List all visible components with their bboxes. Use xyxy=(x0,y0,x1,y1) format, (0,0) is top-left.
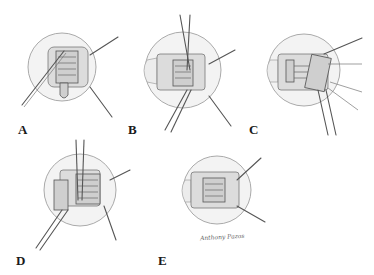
panel-e-illustration xyxy=(175,150,275,235)
panel-label-a: A xyxy=(18,122,27,138)
panel-b-illustration xyxy=(135,10,245,130)
panel-label-d: D xyxy=(16,253,25,269)
panel-a xyxy=(20,25,120,125)
panel-label-c: C xyxy=(249,122,258,138)
panel-e xyxy=(175,150,275,235)
panel-d xyxy=(30,140,130,250)
panel-label-e: E xyxy=(158,253,167,269)
panel-c-illustration xyxy=(258,20,374,135)
panel-b xyxy=(135,10,245,130)
panel-a-illustration xyxy=(20,25,120,125)
panel-d-illustration xyxy=(30,140,130,250)
illustrator-signature: Anthony Pazos xyxy=(200,232,245,241)
panel-c xyxy=(258,20,374,135)
panel-label-b: B xyxy=(128,122,137,138)
